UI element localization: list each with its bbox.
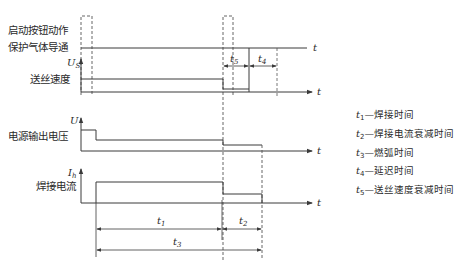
t-axis-label-2: t bbox=[317, 86, 322, 97]
gas-signal bbox=[81, 48, 307, 92]
legend-item-t4: t4—延迟时间 bbox=[356, 165, 414, 178]
t4-label: t4 bbox=[258, 53, 267, 66]
gas-label-line2: 保护气体导通 bbox=[8, 41, 69, 53]
current-label: 焊接电流 bbox=[36, 180, 77, 192]
legend-item-t1: t1—焊接时间 bbox=[356, 109, 414, 122]
legend: t1—焊接时间 t2—焊接电流衰减时间 t3—燃弧时间 t4—延迟时间 t5—送… bbox=[356, 109, 454, 197]
timing-diagram: 启动按钮动作 保护气体导通 t US 送丝速度 t t5 t4 U 电源输出电压… bbox=[0, 0, 463, 271]
current-axis-symbol: Ih bbox=[67, 167, 76, 180]
t-axis-label-3: t bbox=[317, 145, 322, 156]
t3-label: t3 bbox=[173, 236, 182, 249]
wire-feed-label: 送丝速度 bbox=[30, 73, 71, 85]
t2-label: t2 bbox=[239, 215, 248, 228]
gas-label-line1: 启动按钮动作 bbox=[8, 24, 69, 36]
wire-feed-axis-symbol: US bbox=[67, 57, 80, 70]
t-axis-label-1: t bbox=[313, 42, 318, 53]
t1-label: t1 bbox=[157, 215, 166, 228]
voltage-label: 电源输出电压 bbox=[8, 130, 69, 142]
legend-item-t3: t3—燃弧时间 bbox=[356, 147, 414, 160]
legend-item-t5: t5—送丝速度衰减时间 bbox=[356, 184, 454, 197]
button-pulse-start bbox=[81, 16, 92, 95]
voltage-signal bbox=[81, 118, 312, 151]
voltage-axis-symbol: U bbox=[70, 115, 79, 126]
t-axis-label-4: t bbox=[317, 197, 322, 208]
legend-item-t2: t2—焊接电流衰减时间 bbox=[356, 128, 454, 141]
current-signal bbox=[81, 169, 312, 203]
t5-label: t5 bbox=[230, 53, 239, 66]
